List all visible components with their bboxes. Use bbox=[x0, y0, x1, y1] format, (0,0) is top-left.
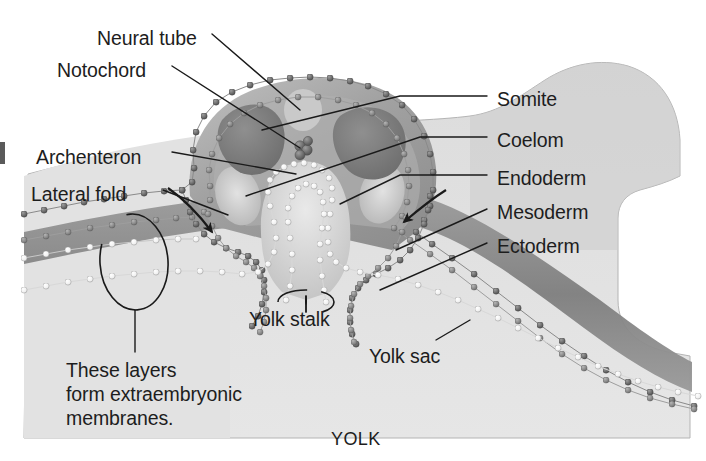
page-edge-artifact bbox=[0, 142, 5, 164]
figure-canvas: Neural tube Notochord Archenteron Latera… bbox=[0, 0, 706, 461]
label-yolk: YOLK bbox=[331, 428, 381, 451]
label-yolk-stalk: Yolk stalk bbox=[249, 308, 330, 331]
label-notochord: Notochord bbox=[57, 59, 146, 82]
label-coelom: Coelom bbox=[497, 129, 564, 152]
label-somite: Somite bbox=[497, 88, 557, 111]
notochord-cell-d bbox=[303, 136, 312, 145]
label-neural-tube: Neural tube bbox=[97, 27, 197, 50]
notochord-cell-c bbox=[295, 150, 305, 160]
label-yolk-sac: Yolk sac bbox=[369, 345, 440, 368]
extraembryonic-membranes-note: These layers form extraembryonic membran… bbox=[66, 358, 242, 430]
archenteron-cavity bbox=[261, 162, 351, 301]
neural-tube-cavity bbox=[284, 89, 322, 131]
label-endoderm: Endoderm bbox=[497, 167, 586, 190]
label-mesoderm: Mesoderm bbox=[497, 201, 588, 224]
label-ectoderm: Ectoderm bbox=[497, 235, 580, 258]
label-lateral-fold: Lateral fold bbox=[31, 183, 126, 206]
label-archenteron: Archenteron bbox=[36, 146, 141, 169]
